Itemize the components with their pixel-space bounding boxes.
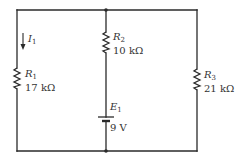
- battery-e1: E1 9 V: [98, 101, 128, 133]
- current-label: I1: [27, 33, 36, 46]
- e1-value: 9 V: [110, 122, 128, 133]
- r2-value: 10 kΩ: [113, 45, 143, 56]
- circuit-diagram: R1 17 kΩ I1 R2 10 kΩ E1 9 V R3 21 kΩ: [0, 0, 242, 163]
- e1-label: E1: [109, 101, 122, 114]
- r1-label: R1: [24, 68, 37, 81]
- resistor-r2-zigzag-icon: [103, 32, 109, 53]
- resistor-r1: R1 17 kΩ: [14, 68, 55, 93]
- wires: [17, 10, 197, 151]
- resistor-r2: R2 10 kΩ: [103, 31, 143, 56]
- r1-value: 17 kΩ: [25, 82, 55, 93]
- current-i1: I1: [21, 33, 37, 50]
- resistor-r3: R3 21 kΩ: [194, 69, 234, 94]
- r3-label: R3: [203, 69, 216, 82]
- r2-label: R2: [112, 31, 125, 44]
- current-arrow-down-icon: [21, 44, 26, 50]
- junction-top-dot: [104, 8, 108, 12]
- resistor-r1-zigzag-icon: [14, 68, 20, 89]
- r3-value: 21 kΩ: [204, 83, 234, 94]
- junction-bottom-dot: [104, 149, 108, 153]
- resistor-r3-zigzag-icon: [194, 69, 200, 90]
